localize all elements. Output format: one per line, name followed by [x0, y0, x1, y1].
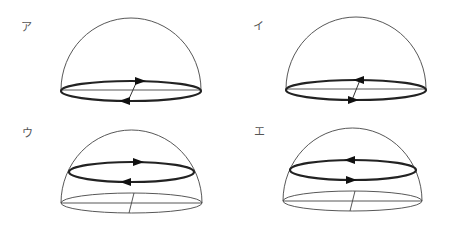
- loop-connector: [352, 80, 360, 100]
- arrow-right-icon: [133, 158, 144, 166]
- dome-outline: [61, 18, 201, 90]
- hemisphere-diagram: [0, 0, 454, 234]
- current-loop: [69, 162, 194, 182]
- panel-i: [286, 17, 426, 104]
- panel-u: [61, 130, 202, 213]
- arrow-left-icon: [344, 156, 355, 164]
- arrow-right-icon: [346, 176, 357, 184]
- panel-e: [283, 128, 422, 211]
- dome-outline: [286, 17, 426, 89]
- arrow-left-icon: [119, 97, 130, 105]
- panel-a: [61, 18, 201, 105]
- current-loop: [61, 81, 201, 101]
- arrow-right-icon: [135, 77, 146, 85]
- arrow-left-icon: [120, 178, 131, 186]
